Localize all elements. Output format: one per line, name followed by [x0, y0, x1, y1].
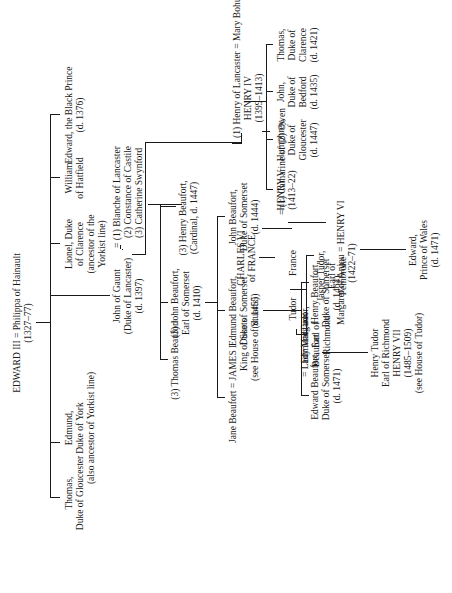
- connector: [301, 282, 309, 283]
- label: (1485–1509): [403, 313, 414, 393]
- node-catharine: = (1) Catharine of (2) Owen: [277, 108, 288, 215]
- node-lionel: Lionel, Duke of Clarence (ancestor of th…: [64, 214, 108, 273]
- node-henry-iv: (1) Henry of Lancaster = Mary Bohun: [232, 0, 243, 138]
- label: HENRY VII: [392, 313, 403, 393]
- node-william: William of Hatfield: [64, 157, 86, 198]
- connector: [217, 397, 225, 398]
- label: (Cardinal, d. 1447): [189, 180, 200, 255]
- connector: [205, 302, 217, 303]
- connector: [290, 289, 306, 290]
- label: Clarence: [298, 28, 309, 63]
- connector: [266, 44, 267, 190]
- label: John,: [276, 75, 287, 110]
- node-thomas-clarence: Thomas, Duke of Clarence (d. 1421): [276, 28, 320, 63]
- label: John of Gaunt: [112, 258, 123, 335]
- label: Duke of: [287, 119, 298, 161]
- label: (3) Catherine Swynford: [134, 146, 145, 248]
- label: Edward, the Black Prince: [64, 66, 75, 163]
- connector: [122, 249, 123, 250]
- connector: [145, 142, 241, 143]
- label: (also ancestor of Yorkist line): [86, 372, 97, 484]
- label: = Lady Margaret: [300, 313, 311, 377]
- label: (d. 1471): [332, 352, 343, 421]
- label: (1422–71): [347, 243, 358, 283]
- label: (d. 1447): [309, 119, 320, 161]
- label: EDWARD III = Philippa of Hainault: [12, 253, 23, 393]
- connector: [50, 497, 60, 498]
- connector: [148, 204, 160, 205]
- node-thomas-beaufort: (3) Thomas Beaufort: [170, 320, 181, 400]
- connector: [259, 257, 275, 258]
- node-charles-vi: CHARLES VI of FRANCE: [236, 230, 258, 286]
- node-henry-vi-dates: (1422–71): [347, 243, 358, 283]
- node-henry-beaufort-cardinal: (3) Henry Beaufort, (Cardinal, d. 1447): [178, 180, 200, 255]
- node-thomas-gloucester: Thomas, Duke of Gloucester: [64, 456, 86, 530]
- label: Duke of Gloucester: [75, 456, 86, 530]
- connector: [50, 114, 60, 115]
- connector: [145, 142, 146, 255]
- connector: [360, 249, 406, 250]
- family-tree-diagram: EDWARD III = Philippa of Hainault (1327–…: [0, 0, 452, 593]
- label: (d. 1471): [430, 220, 441, 280]
- label: (d. 1376): [75, 66, 86, 163]
- node-black-prince: Edward, the Black Prince (d. 1376): [64, 66, 86, 163]
- label: HENRY IV: [243, 73, 254, 122]
- label: Henry Tudor: [370, 313, 381, 393]
- label: Prince of Wales: [419, 220, 430, 280]
- label: of Hatfield: [75, 157, 86, 198]
- label: = (1) Catharine of (2) Owen: [277, 108, 288, 215]
- connector: [36, 322, 50, 323]
- label: Tudor: [288, 298, 299, 321]
- label: Yorkist line): [97, 214, 108, 273]
- label: Beaufort: [311, 313, 322, 377]
- connector: [306, 255, 314, 256]
- node-john-bedford: John, Duke of Bedford (d. 1435): [276, 75, 320, 110]
- connector: [50, 243, 60, 244]
- connector: [160, 205, 161, 360]
- connector: [217, 310, 225, 311]
- connector: [50, 295, 110, 296]
- label: CHARLES VI: [236, 230, 247, 286]
- connector: [50, 442, 60, 443]
- connector: [322, 352, 368, 353]
- connector: [217, 216, 225, 217]
- label: William: [64, 157, 75, 198]
- connector: [217, 216, 218, 398]
- connector: [241, 133, 242, 143]
- label: Earl of Somerset: [181, 268, 192, 337]
- label: Edward,: [408, 220, 419, 280]
- connector: [288, 222, 326, 223]
- label: (d. 1410): [192, 268, 203, 337]
- label: = (1) Blanche of Lancaster: [112, 146, 123, 248]
- node-catharine-france: France: [288, 250, 299, 276]
- label: (see House of Stuarts): [250, 297, 261, 443]
- label: Bedford: [298, 75, 309, 110]
- label: Duke of: [287, 28, 298, 63]
- node-john-of-gaunt: John of Gaunt (Duke of Lancaster) (d. 13…: [112, 258, 145, 335]
- node-edward-prince-wales: Edward, Prince of Wales (d. 1471): [408, 220, 441, 280]
- label: (d. 1397): [134, 258, 145, 335]
- connector: [160, 302, 168, 303]
- node-owen-tudor: Tudor: [288, 298, 299, 321]
- label: France: [288, 250, 299, 276]
- label: (1327–77): [23, 253, 34, 393]
- label: Earl of Richmond: [381, 313, 392, 393]
- connector: [160, 359, 168, 360]
- label: (3) Henry Beaufort,: [178, 180, 189, 255]
- label: (2) Constance of Castile: [123, 146, 134, 248]
- connector: [160, 206, 176, 207]
- label: (ancestor of the: [86, 214, 97, 273]
- label: Gloucester: [298, 119, 309, 161]
- label: Lionel, Duke: [64, 214, 75, 273]
- connector: [266, 91, 273, 92]
- label: (d. 1435): [309, 75, 320, 110]
- connector: [296, 329, 297, 335]
- connector: [50, 114, 51, 498]
- label: (3) Thomas Beaufort: [170, 320, 181, 400]
- label: Duke of: [287, 75, 298, 110]
- label: Jane Beaufort = JAMES I: [228, 297, 239, 443]
- node-gaunt-wives: = (1) Blanche of Lancaster (2) Constance…: [112, 146, 145, 248]
- node-henry-vi: Margaret of Anjou = HENRY VI: [336, 200, 347, 325]
- node-lady-margaret: = Lady Margaret Beaufort: [300, 313, 322, 377]
- connector: [301, 395, 309, 396]
